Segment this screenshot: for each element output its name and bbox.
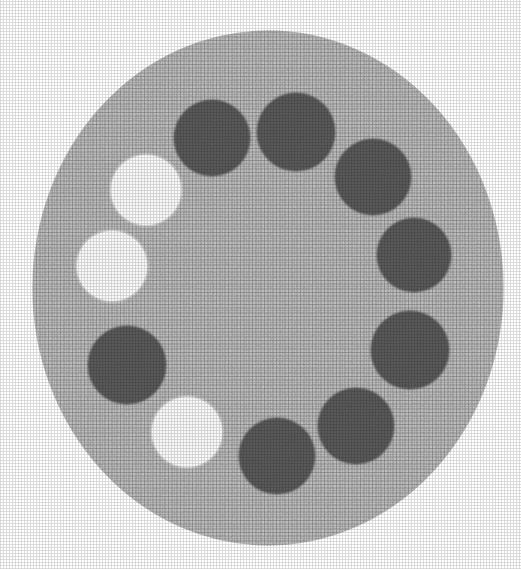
dark-spot-fill	[89, 327, 165, 403]
dark-spot-fill	[240, 419, 314, 493]
light-spot	[76, 230, 148, 302]
dark-spot	[239, 418, 315, 494]
dark-spot-fill	[378, 219, 450, 291]
dark-spot-fill	[258, 94, 334, 170]
figure-root: circular gray disc containing a ring of …	[0, 0, 521, 569]
light-spot-fill	[111, 155, 181, 225]
dark-spot-fill	[336, 140, 410, 214]
dark-spot	[88, 326, 166, 404]
dark-spot-fill	[372, 312, 448, 388]
dark-spot	[371, 311, 449, 389]
dark-spot	[318, 388, 394, 464]
dark-spot	[174, 100, 250, 176]
light-spot-fill	[152, 397, 222, 467]
halftone-disc-figure	[0, 0, 521, 569]
dark-spot-fill	[175, 101, 249, 175]
light-spot-fill	[77, 231, 147, 301]
dark-spot	[377, 218, 451, 292]
dark-spot	[257, 93, 335, 171]
dark-spot-fill	[319, 389, 393, 463]
light-spot	[110, 154, 182, 226]
dark-spot	[335, 139, 411, 215]
light-spot	[151, 396, 223, 468]
